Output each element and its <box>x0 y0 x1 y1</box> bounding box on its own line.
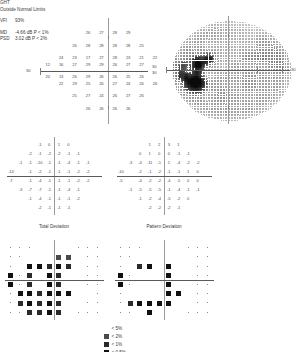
grayscale-dot <box>215 101 216 102</box>
sensitivity-value: 27 <box>110 82 120 86</box>
deviation-value: 0 <box>135 152 145 156</box>
grayscale-dot <box>181 92 182 93</box>
probability-symbol <box>166 282 172 288</box>
grayscale-dot <box>197 100 198 101</box>
grayscale-dot <box>255 78 256 79</box>
grayscale-dot <box>259 104 260 105</box>
grayscale-dot <box>280 50 281 51</box>
probability-symbol <box>27 272 33 278</box>
probability-symbol-glyph <box>186 291 191 296</box>
grayscale-dot <box>220 77 221 78</box>
grayscale-dot <box>235 94 236 95</box>
grayscale-dot <box>221 84 222 85</box>
grayscale-dot <box>280 83 281 84</box>
grayscale-dot <box>220 109 221 110</box>
grayscale-dot <box>217 95 218 96</box>
grayscale-dot <box>189 95 190 96</box>
grayscale-dot <box>192 98 193 99</box>
grayscale-dot <box>271 94 272 95</box>
grayscale-dot <box>255 86 256 87</box>
grayscale-dot <box>277 75 278 76</box>
grayscale-dot <box>201 98 202 99</box>
grayscale-dot <box>245 80 246 81</box>
grayscale-dot <box>273 83 274 84</box>
grayscale-dot <box>226 98 227 99</box>
grayscale-dot <box>257 77 258 78</box>
grayscale-dot <box>200 100 201 101</box>
grayscale-dot <box>248 75 249 76</box>
grayscale-dot <box>248 86 249 87</box>
grayscale-dot <box>229 90 230 91</box>
grayscale-dot <box>238 101 239 102</box>
grayscale-dot <box>232 104 233 105</box>
grayscale-dot <box>209 104 210 105</box>
probability-symbol <box>56 245 62 251</box>
grayscale-dot <box>200 39 201 40</box>
grayscale-dot <box>265 90 266 91</box>
grayscale-dot <box>226 80 227 81</box>
grayscale-dot <box>263 42 264 43</box>
probability-symbol-glyph <box>17 254 23 260</box>
probability-symbol-glyph <box>17 309 23 315</box>
grayscale-dot <box>226 75 227 76</box>
grayscale-dot <box>246 80 247 81</box>
grayscale-dot <box>262 94 263 95</box>
grayscale-dot <box>246 112 247 113</box>
grayscale-dot <box>259 90 260 91</box>
grayscale-dot <box>226 109 227 110</box>
grayscale-dot <box>211 111 212 112</box>
grayscale-dot <box>266 87 267 88</box>
grayscale-dot <box>257 81 258 82</box>
grayscale-dot <box>237 114 238 115</box>
probability-symbol-glyph <box>95 263 101 269</box>
grayscale-dot <box>269 90 270 91</box>
grayscale-dot <box>209 87 210 88</box>
grayscale-dot <box>231 98 232 99</box>
deviation-value: -2 <box>83 179 93 183</box>
grayscale-dot <box>212 84 213 85</box>
grayscale-dot <box>273 72 274 73</box>
grayscale-dot <box>194 44 195 45</box>
grayscale-dot <box>269 75 270 76</box>
grayscale-dot <box>263 77 264 78</box>
grayscale-dot <box>282 75 283 76</box>
grayscale-dot <box>262 84 263 85</box>
grayscale-dot <box>259 78 260 79</box>
grayscale-dot <box>200 44 201 45</box>
grayscale-dot <box>268 75 269 76</box>
grayscale-dot <box>238 104 239 105</box>
grayscale-dot <box>212 108 213 109</box>
grayscale-dot <box>229 77 230 78</box>
grayscale-dot <box>225 106 226 107</box>
axis-tick <box>257 67 258 73</box>
grayscale-dot <box>282 52 283 53</box>
grayscale-dot <box>237 77 238 78</box>
grayscale-dot <box>211 50 212 51</box>
grayscale-dot <box>262 44 263 45</box>
grayscale-dot <box>265 80 266 81</box>
probability-symbol-glyph <box>205 272 211 278</box>
grayscale-dot <box>224 97 225 98</box>
grayscale-dot <box>225 83 226 84</box>
grayscale-dot <box>214 100 215 101</box>
grayscale-dot <box>189 46 190 47</box>
grayscale-dot <box>279 83 280 84</box>
grayscale-dot <box>280 49 281 50</box>
legend-row: < 5% <box>104 316 126 324</box>
grayscale-dot <box>262 72 263 73</box>
grayscale-dot <box>262 39 263 40</box>
grayscale-dot <box>220 106 221 107</box>
deviation-value: -4 <box>164 179 174 183</box>
grayscale-dot <box>234 97 235 98</box>
axis-tick <box>228 106 229 109</box>
probability-symbol <box>205 300 211 306</box>
grayscale-dot <box>224 95 225 96</box>
grayscale-dot <box>214 92 215 93</box>
probability-symbol-glyph <box>18 264 23 269</box>
grayscale-dot <box>265 94 266 95</box>
grayscale-dot <box>211 87 212 88</box>
ght-label: GHT <box>0 0 10 5</box>
grayscale-dot <box>224 92 225 93</box>
grayscale-dot <box>279 47 280 48</box>
grayscale-dot <box>200 46 201 47</box>
